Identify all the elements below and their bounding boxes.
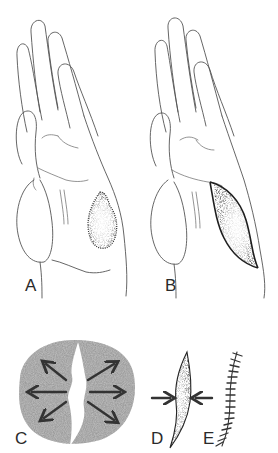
ring-finger-outline-b [186, 30, 222, 116]
thumb-outline-b [150, 113, 174, 178]
little-finger-outline-b [194, 62, 234, 136]
suture-ticks [216, 353, 242, 446]
palm-crease-b1 [180, 137, 198, 140]
panel-label-a: A [25, 277, 36, 294]
panel-label-c: C [15, 430, 27, 447]
palm-crease-2 [58, 136, 78, 148]
hand-surgery-figure [0, 0, 278, 453]
thenar-eminence-outline-b [151, 180, 187, 264]
palm-crease-b2 [196, 140, 214, 150]
ring-finger-outline [48, 32, 84, 116]
middle-finger-outline-b [168, 18, 196, 112]
panel-label-b: B [165, 277, 176, 294]
thumb-outline [16, 111, 40, 178]
palm-crease-1 [42, 135, 58, 138]
little-finger-outline [58, 64, 98, 136]
panel-e-suture [216, 352, 242, 446]
palm-crease-b4 [192, 192, 196, 228]
panel-c-wound [19, 340, 135, 446]
wrist-crease [52, 260, 110, 273]
panel-a-hand [16, 20, 127, 298]
middle-finger-outline [31, 20, 58, 112]
panel-label-d: D [151, 430, 163, 447]
palm-crease-6 [33, 178, 36, 190]
palm-crease-4 [60, 190, 64, 224]
wrist-radial-line [40, 262, 42, 298]
index-finger-outline-b [155, 40, 180, 132]
palm-crease-5 [64, 190, 68, 224]
lesion-a [88, 192, 117, 248]
panel-label-e: E [203, 430, 214, 447]
palm-crease-b5 [196, 192, 200, 228]
index-finger-outline [17, 44, 42, 132]
palm-crease-3 [38, 168, 88, 182]
thenar-eminence-outline [17, 180, 53, 262]
